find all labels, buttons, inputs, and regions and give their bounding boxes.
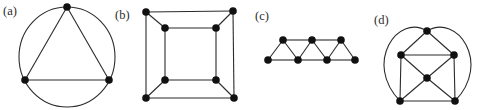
- panel-label-b: (b): [115, 8, 130, 22]
- graph-panel-c: (c): [255, 9, 359, 64]
- graph-diagrams-figure: (a)(b)(c)(d): [0, 0, 478, 110]
- edge: [427, 31, 454, 55]
- vertex: [397, 51, 405, 59]
- edge: [67, 7, 109, 80]
- graph-panel-a: (a): [3, 3, 115, 107]
- vertex: [63, 3, 71, 11]
- vertex: [230, 94, 238, 102]
- vertex: [212, 76, 220, 84]
- edge: [233, 11, 234, 98]
- vertex: [212, 24, 220, 32]
- edge: [454, 55, 455, 101]
- vertex: [264, 56, 272, 64]
- edge: [427, 78, 455, 101]
- edge: [146, 11, 233, 12]
- vertex: [323, 56, 331, 64]
- edge: [216, 80, 234, 98]
- vertex: [161, 24, 169, 32]
- panel-label-a: (a): [3, 4, 17, 18]
- panel-label-d: (d): [374, 13, 389, 27]
- edge: [146, 80, 165, 98]
- edge: [400, 55, 401, 101]
- vertex: [396, 97, 404, 105]
- curved-edge: [427, 27, 471, 101]
- panel-label-c: (c): [255, 9, 269, 23]
- vertex: [142, 94, 150, 102]
- edge: [25, 7, 67, 80]
- figure-page: (a)(b)(c)(d): [0, 0, 478, 110]
- vertex: [451, 97, 459, 105]
- edge: [400, 78, 427, 101]
- edge: [401, 31, 427, 55]
- graph-panel-b: (b): [115, 7, 238, 102]
- graph-panel-d: (d): [374, 13, 471, 105]
- circle-edge: [19, 7, 115, 107]
- edge: [401, 55, 427, 78]
- edge: [427, 55, 454, 78]
- vertex: [294, 56, 302, 64]
- vertex: [279, 36, 287, 44]
- curved-edge: [384, 27, 427, 101]
- vertex: [105, 76, 113, 84]
- vertex: [229, 7, 237, 15]
- vertex: [337, 36, 345, 44]
- vertex: [142, 8, 150, 16]
- vertex: [423, 74, 431, 82]
- vertex: [351, 56, 359, 64]
- vertex: [21, 76, 29, 84]
- vertex: [423, 27, 431, 35]
- vertex: [450, 51, 458, 59]
- vertex: [308, 36, 316, 44]
- vertex: [161, 76, 169, 84]
